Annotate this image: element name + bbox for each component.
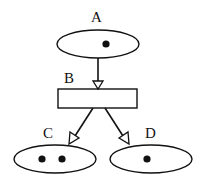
node-b-rect [58,89,137,108]
node-c-dot [58,155,65,162]
node-d-ellipse [110,145,192,173]
node-a-dot [102,40,109,47]
node-d: D [110,125,192,173]
node-d-dot [143,155,150,162]
node-b-label: B [64,70,74,86]
node-d-label: D [145,125,156,141]
node-c: C [14,125,96,173]
diagram-canvas: A B C D [0,0,204,181]
edge-a-to-b [93,58,103,89]
arrow-head-icon [69,132,79,144]
arrow-head-icon [119,132,129,144]
node-c-ellipse [14,145,96,173]
arrow-head-icon [93,81,103,89]
node-c-dot [38,155,45,162]
node-a-ellipse [57,30,139,58]
node-c-label: C [43,125,53,141]
node-a-label: A [91,9,102,25]
edge-b-to-c [69,108,93,144]
edge-b-c-line [75,108,93,136]
edge-b-d-line [105,108,123,136]
node-a: A [57,9,139,58]
edge-b-to-d [105,108,129,144]
